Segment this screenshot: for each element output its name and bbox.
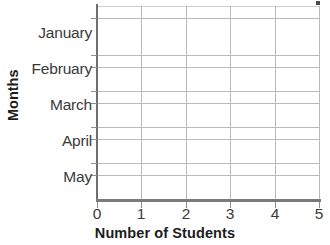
x-axis-title: Number of Students bbox=[0, 226, 330, 241]
grid-line-horizontal bbox=[97, 175, 320, 176]
x-axis-tick-label-3: 3 bbox=[218, 206, 242, 222]
x-axis-tick-label-5: 5 bbox=[307, 206, 330, 222]
y-axis-tick-label-february: February bbox=[32, 61, 92, 77]
y-axis-tick bbox=[91, 18, 97, 19]
grid-line-horizontal bbox=[97, 55, 320, 56]
plot-area bbox=[97, 6, 320, 200]
y-axis-tick-label-january: January bbox=[38, 25, 92, 41]
y-axis-tick bbox=[91, 127, 97, 128]
grid-line-vertical bbox=[319, 6, 320, 200]
x-axis-tick-label-0: 0 bbox=[85, 206, 109, 222]
grid-line-horizontal bbox=[97, 103, 320, 104]
grid-line-horizontal bbox=[97, 18, 320, 19]
bar-chart: January February March April May 0 1 2 3… bbox=[0, 0, 330, 245]
x-axis-line bbox=[96, 199, 321, 202]
y-axis-tick-label-march: March bbox=[50, 97, 92, 113]
x-axis-tick-label-1: 1 bbox=[129, 206, 153, 222]
grid-line-horizontal bbox=[97, 67, 320, 68]
grid-line-horizontal bbox=[97, 127, 320, 128]
x-axis-tick-label-4: 4 bbox=[263, 206, 287, 222]
grid-line-horizontal bbox=[97, 163, 320, 164]
y-axis-title: Months bbox=[6, 60, 21, 130]
y-axis-tick bbox=[91, 91, 97, 92]
x-axis-tick-label-2: 2 bbox=[174, 206, 198, 222]
grid-line-horizontal bbox=[97, 139, 320, 140]
y-axis-tick-label-may: May bbox=[63, 169, 92, 185]
grid-line-vertical bbox=[275, 6, 276, 200]
y-axis-tick bbox=[91, 55, 97, 56]
grid-line-vertical bbox=[186, 6, 187, 200]
grid-line-horizontal bbox=[97, 91, 320, 92]
y-axis-tick bbox=[91, 163, 97, 164]
grid-line-vertical bbox=[230, 6, 231, 200]
y-axis-tick-label-april: April bbox=[62, 133, 92, 149]
grid-line-vertical bbox=[141, 6, 142, 200]
grid-line-horizontal bbox=[97, 6, 320, 7]
scan-artifact-mark bbox=[316, 1, 320, 5]
